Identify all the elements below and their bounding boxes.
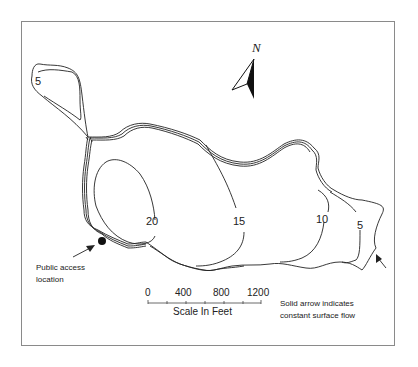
- contour-label-15: 15: [233, 216, 245, 227]
- scale-tick-0: 0: [145, 288, 151, 298]
- shoreline-main-mid: [85, 125, 333, 246]
- contour-label-5-east: 5: [357, 220, 363, 231]
- north-arrow-icon: [232, 59, 254, 99]
- public-access-arrow-icon: [73, 245, 95, 257]
- public-access-label: Public access location: [36, 262, 85, 286]
- public-access-line1: Public access: [36, 262, 85, 274]
- scale-title: Scale In Feet: [173, 307, 232, 317]
- scale-tick-400: 400: [175, 288, 192, 298]
- contour-10: [280, 190, 329, 262]
- contour-label-5-nw: 5: [35, 76, 41, 87]
- north-label: N: [252, 41, 261, 54]
- public-access-line2: location: [36, 274, 85, 286]
- contour-label-10: 10: [316, 214, 328, 225]
- contour-5-nw: [38, 70, 81, 120]
- flow-note-line1: Solid arrow indicates: [280, 298, 355, 310]
- contour-label-20: 20: [146, 216, 158, 227]
- scale-bar: [148, 300, 261, 304]
- scale-tick-800: 800: [213, 288, 230, 298]
- contour-5-east: [330, 192, 360, 263]
- flow-note: Solid arrow indicates constant surface f…: [280, 298, 355, 322]
- scale-tick-1200: 1200: [247, 288, 269, 298]
- contour-20: [94, 160, 155, 244]
- flow-note-line2: constant surface flow: [280, 310, 355, 322]
- public-access-dot-icon: [98, 237, 106, 245]
- solid-flow-arrow-icon: [376, 254, 386, 268]
